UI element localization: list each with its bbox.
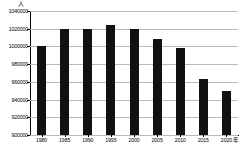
y-tick-mark [27, 46, 30, 47]
x-tick-label: 2000 [128, 137, 139, 143]
bar [106, 25, 115, 135]
x-tick-label: 1985 [59, 137, 70, 143]
gridline [30, 11, 238, 12]
bar-chart: 人 10400001020000100000098000096000094000… [0, 0, 242, 151]
y-tick-label: 1040000 [9, 8, 28, 14]
y-tick-mark [27, 135, 30, 136]
x-tick-label: 2020 [221, 137, 232, 143]
x-tick-label: 1995 [105, 137, 116, 143]
bar [60, 29, 69, 135]
y-tick-mark [27, 117, 30, 118]
y-tick-label: 960000 [12, 79, 28, 85]
y-axis-unit-label: 人 [18, 1, 24, 8]
x-tick-label: 2015 [198, 137, 209, 143]
y-tick-label: 1000000 [9, 43, 28, 49]
x-tick-label: 2005 [152, 137, 163, 143]
bar [130, 29, 139, 135]
x-tick-label: 1980 [36, 137, 47, 143]
bar [153, 39, 162, 135]
y-tick-mark [27, 11, 30, 12]
x-axis-unit-label: 年 [233, 137, 239, 143]
x-tick-label: 2010 [175, 137, 186, 143]
bar [37, 46, 46, 135]
bar [83, 29, 92, 135]
x-tick-label: 1990 [82, 137, 93, 143]
bar [176, 48, 185, 135]
y-tick-label: 900000 [12, 132, 28, 138]
y-tick-label: 980000 [12, 61, 28, 67]
y-tick-mark [27, 64, 30, 65]
bar [199, 79, 208, 135]
y-tick-mark [27, 29, 30, 30]
plot-area: 1040000102000010000009800009600009400009… [30, 11, 238, 135]
y-tick-mark [27, 100, 30, 101]
y-tick-label: 920000 [12, 114, 28, 120]
y-tick-mark [27, 82, 30, 83]
bar [222, 91, 231, 135]
y-tick-label: 940000 [12, 97, 28, 103]
y-tick-label: 1020000 [9, 26, 28, 32]
